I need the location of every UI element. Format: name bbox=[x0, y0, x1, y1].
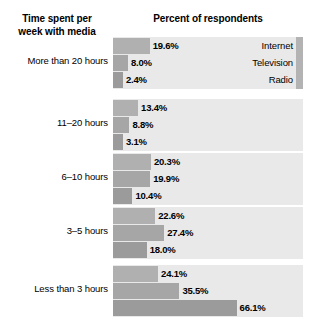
category-label: 3–5 hours bbox=[0, 225, 108, 237]
bar-value-label: 18.0% bbox=[150, 243, 176, 256]
category-axis-title-line1: Time spent per bbox=[4, 13, 110, 26]
bar-value-label: 19.6% bbox=[153, 39, 179, 52]
bar-value-label: 27.4% bbox=[167, 226, 193, 239]
group-band: 13.4%8.8%3.1% bbox=[113, 99, 303, 151]
value-axis-title: Percent of respondents bbox=[113, 13, 303, 24]
bar-television bbox=[113, 117, 129, 133]
bar-television bbox=[113, 225, 164, 241]
bar-value-label: 66.1% bbox=[240, 301, 266, 314]
bar-value-label: 20.3% bbox=[154, 155, 180, 168]
category-label: 11–20 hours bbox=[0, 117, 108, 129]
bar-value-label: 10.4% bbox=[135, 189, 161, 202]
bar-value-label: 8.8% bbox=[132, 118, 153, 131]
bar-row: 19.9% bbox=[113, 171, 303, 187]
category-axis-title: Time spent per week with media bbox=[4, 13, 110, 38]
bar-radio bbox=[113, 188, 132, 204]
bar-radio bbox=[113, 242, 147, 258]
bar-value-label: 2.4% bbox=[126, 73, 147, 86]
bar-row: 3.1% bbox=[113, 134, 303, 150]
bar-value-label: 22.6% bbox=[158, 209, 184, 222]
group-band: 20.3%19.9%10.4% bbox=[113, 153, 303, 205]
bar-group: 11–20 hours13.4%8.8%3.1% bbox=[0, 99, 315, 151]
bar-internet bbox=[113, 38, 150, 54]
bar-group: 6–10 hours20.3%19.9%10.4% bbox=[0, 153, 315, 205]
bar-group: More than 20 hours19.6%8.0%2.4%InternetT… bbox=[0, 37, 315, 89]
bar-row: 13.4% bbox=[113, 100, 303, 116]
bar-radio bbox=[113, 72, 123, 88]
bar-radio bbox=[113, 300, 237, 316]
bar-television bbox=[113, 171, 150, 187]
bar-internet bbox=[113, 154, 151, 170]
bar-group: 3–5 hours22.6%27.4%18.0% bbox=[0, 207, 315, 259]
bar-internet bbox=[113, 208, 155, 224]
bar-row: 20.3% bbox=[113, 154, 303, 170]
chart-root: Time spent per week with media Percent o… bbox=[0, 0, 315, 326]
bar-value-label: 13.4% bbox=[141, 101, 167, 114]
bar-row: 22.6% bbox=[113, 208, 303, 224]
bar-television bbox=[113, 55, 128, 71]
category-label: 6–10 hours bbox=[0, 171, 108, 183]
bar-internet bbox=[113, 100, 138, 116]
bar-value-label: 8.0% bbox=[131, 56, 152, 69]
bar-value-label: 19.9% bbox=[153, 172, 179, 185]
bar-row: 8.8% bbox=[113, 117, 303, 133]
group-band: 22.6%27.4%18.0% bbox=[113, 207, 303, 259]
bar-television bbox=[113, 283, 179, 299]
bar-value-label: 3.1% bbox=[126, 135, 147, 148]
legend-label-internet: Internet bbox=[262, 39, 293, 52]
bar-value-label: 35.5% bbox=[182, 284, 208, 297]
bar-value-label: 24.1% bbox=[161, 267, 187, 280]
bar-row: 35.5% bbox=[113, 283, 303, 299]
group-band: 24.1%35.5%66.1% bbox=[113, 265, 303, 317]
bar-radio bbox=[113, 134, 123, 150]
category-label: More than 20 hours bbox=[0, 55, 108, 67]
bar-group: Less than 3 hours24.1%35.5%66.1% bbox=[0, 265, 315, 317]
bar-row: 66.1% bbox=[113, 300, 303, 316]
bar-internet bbox=[113, 266, 158, 282]
bar-row: 18.0% bbox=[113, 242, 303, 258]
legend-label-television: Television bbox=[252, 56, 293, 69]
bar-row: 27.4% bbox=[113, 225, 303, 241]
legend-label-radio: Radio bbox=[269, 73, 293, 86]
category-label: Less than 3 hours bbox=[0, 283, 108, 295]
legend-edge-strip bbox=[296, 37, 303, 89]
bar-row: 10.4% bbox=[113, 188, 303, 204]
bar-row: 24.1% bbox=[113, 266, 303, 282]
chart-header: Time spent per week with media Percent o… bbox=[0, 0, 315, 36]
group-band: 19.6%8.0%2.4%InternetTelevisionRadio bbox=[113, 37, 303, 89]
